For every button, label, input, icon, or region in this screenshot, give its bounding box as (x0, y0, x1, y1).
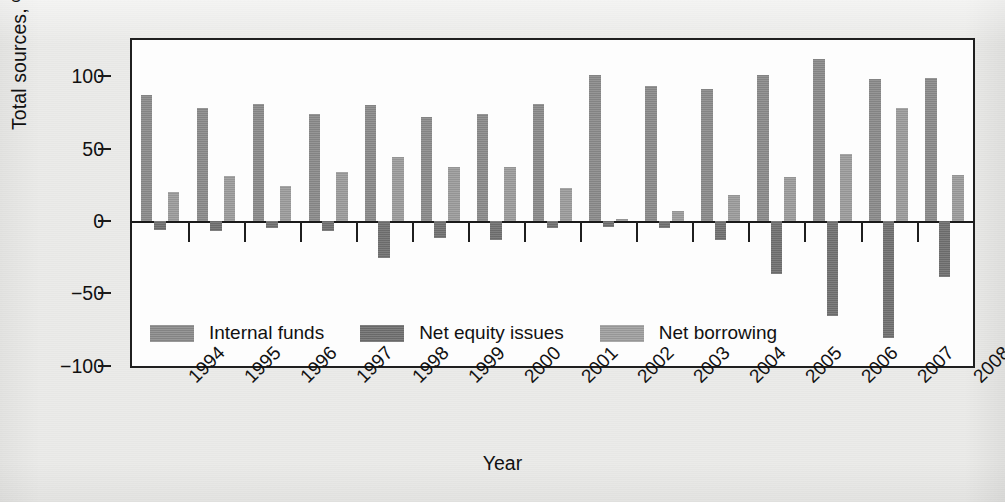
bar (336, 172, 348, 221)
x-tick-label: 1998 (408, 372, 424, 388)
bar (771, 221, 783, 275)
bar (253, 104, 265, 221)
bar (504, 167, 516, 221)
bar (715, 221, 727, 240)
x-tick-label: 2000 (520, 372, 536, 388)
x-separator-tick (524, 221, 526, 242)
x-separator-tick (917, 221, 919, 242)
legend-swatch-icon (360, 325, 404, 342)
x-tick-label: 2008 (969, 372, 985, 388)
y-tick-label: 100 (42, 65, 104, 88)
x-axis-title: Year (0, 452, 1005, 475)
bar (869, 79, 881, 221)
y-tick-label: −50 (42, 282, 104, 305)
x-tick-label: 2007 (913, 372, 929, 388)
bar (378, 221, 390, 259)
x-tick-label: 2005 (801, 372, 817, 388)
legend-item[interactable]: Net borrowing (600, 322, 777, 344)
bar (322, 221, 334, 231)
bar (533, 104, 545, 221)
bar (421, 117, 433, 221)
x-separator-tick (300, 221, 302, 242)
bar (603, 221, 615, 227)
bar (589, 75, 601, 221)
x-separator-tick (692, 221, 694, 242)
legend-swatch-icon (600, 325, 644, 342)
bar (925, 78, 937, 221)
y-tick-label: 50 (42, 137, 104, 160)
y-tick-mark (98, 220, 111, 222)
y-tick-mark (98, 292, 111, 294)
y-tick-mark (98, 365, 111, 367)
bar (896, 108, 908, 221)
chart-legend: Internal fundsNet equity issuesNet borro… (150, 322, 777, 344)
bar (392, 157, 404, 221)
legend-item[interactable]: Internal funds (150, 322, 324, 344)
x-separator-tick (188, 221, 190, 242)
x-tick-label: 2006 (857, 372, 873, 388)
x-tick-label: 2003 (689, 372, 705, 388)
bar (197, 108, 209, 221)
bar (547, 221, 559, 228)
bar (883, 221, 895, 338)
x-separator-tick (412, 221, 414, 242)
plot-frame (130, 38, 975, 368)
x-tick-label: 1995 (240, 372, 256, 388)
bar (616, 219, 628, 220)
x-separator-tick (244, 221, 246, 242)
x-tick-label: 1996 (296, 372, 312, 388)
bar (659, 221, 671, 228)
bar (224, 176, 236, 221)
y-tick-mark (98, 148, 111, 150)
x-tick-label: 1997 (352, 372, 368, 388)
legend-swatch-icon (150, 325, 194, 342)
bar (490, 221, 502, 240)
x-separator-tick (356, 221, 358, 242)
bar (309, 114, 321, 221)
bar (154, 221, 166, 230)
bar (757, 75, 769, 221)
y-tick-label: −100 (42, 354, 104, 377)
legend-label: Net equity issues (419, 322, 564, 344)
y-tick-mark (98, 75, 111, 77)
bar (141, 95, 153, 221)
bar (280, 186, 292, 221)
legend-label: Net borrowing (659, 322, 777, 344)
plot-area (132, 40, 973, 366)
bar (560, 188, 572, 221)
bar (266, 221, 278, 228)
bar (434, 221, 446, 238)
bar (477, 114, 489, 221)
x-separator-tick (804, 221, 806, 242)
bar (365, 105, 377, 221)
y-tick-label: 0 (42, 210, 104, 233)
x-axis-ticks: 1994199519961997199819992000200120022003… (130, 372, 975, 442)
x-separator-tick (748, 221, 750, 242)
bar (645, 86, 657, 221)
bar (827, 221, 839, 317)
x-tick-label: 2001 (577, 372, 593, 388)
bar (210, 221, 222, 231)
legend-item[interactable]: Net equity issues (360, 322, 564, 344)
bar (701, 89, 713, 221)
x-separator-tick (580, 221, 582, 242)
x-tick-label: 2004 (745, 372, 761, 388)
bar (784, 177, 796, 220)
x-separator-tick (636, 221, 638, 242)
bar (939, 221, 951, 277)
legend-label: Internal funds (209, 322, 324, 344)
bar (840, 154, 852, 221)
x-separator-tick (468, 221, 470, 242)
bar (952, 175, 964, 221)
bar (672, 211, 684, 221)
figure-canvas: Total sources, % 100500−50−100 Internal … (0, 0, 1005, 502)
x-separator-tick (861, 221, 863, 242)
bar (448, 167, 460, 221)
x-tick-label: 2002 (633, 372, 649, 388)
x-tick-label: 1999 (464, 372, 480, 388)
bar (168, 192, 180, 221)
bar (728, 195, 740, 221)
bar (813, 59, 825, 221)
x-tick-label: 1994 (184, 372, 200, 388)
y-axis-ticks: 100500−50−100 (32, 0, 104, 502)
